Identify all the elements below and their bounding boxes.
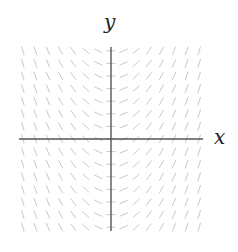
slope-mark (71, 198, 76, 205)
slope-mark (58, 223, 62, 231)
slope-mark (46, 210, 50, 218)
slope-mark (185, 160, 188, 168)
slope-mark (185, 110, 188, 118)
slope-mark (21, 223, 24, 232)
slope-mark (34, 72, 37, 80)
slope-mark (159, 110, 163, 118)
slope-mark (58, 198, 62, 206)
slope-mark (71, 186, 76, 193)
slope-mark (94, 125, 102, 129)
slope-mark (34, 198, 37, 206)
slope-mark (146, 161, 151, 168)
slope-mark (21, 173, 24, 182)
slope-mark (71, 60, 76, 67)
slope-mark (46, 72, 50, 80)
slope-mark (159, 122, 163, 130)
slope-mark (185, 47, 188, 55)
slope-mark (21, 47, 24, 56)
slope-mark (172, 59, 176, 67)
slope-mark (133, 224, 140, 230)
slope-mark (82, 212, 89, 218)
slope-mark (133, 199, 140, 205)
slope-mark (185, 223, 188, 231)
slope-mark (34, 160, 37, 168)
slope-mark (58, 110, 62, 118)
slope-mark (94, 99, 102, 103)
slope-mark (159, 160, 163, 168)
slope-mark (34, 210, 37, 218)
slope-mark (198, 198, 201, 207)
slope-mark (198, 59, 201, 68)
slope-mark (146, 173, 151, 180)
slope-mark (94, 213, 102, 217)
slope-mark (159, 148, 163, 156)
y-axis-label: y (104, 12, 115, 32)
slope-mark (172, 173, 176, 181)
slope-mark (94, 188, 102, 192)
slope-mark (82, 73, 89, 79)
slope-mark (58, 59, 62, 67)
slope-mark (198, 110, 201, 119)
slope-mark (46, 185, 50, 193)
slope-mark (46, 84, 50, 92)
slope-mark (82, 111, 89, 117)
slope-mark (34, 59, 37, 67)
slope-mark (82, 149, 89, 155)
slope-mark (94, 62, 102, 66)
slope-mark (185, 84, 188, 92)
slope-mark (198, 185, 201, 194)
slope-mark (71, 161, 76, 168)
slope-mark (172, 122, 176, 130)
slope-mark (94, 112, 102, 116)
slope-mark (46, 147, 50, 155)
slope-mark (159, 59, 163, 67)
slope-mark (133, 86, 140, 92)
slope-mark (146, 47, 151, 54)
slope-mark (58, 173, 62, 181)
slope-mark (159, 173, 163, 181)
slope-mark (172, 72, 176, 80)
slope-mark (94, 87, 102, 91)
slope-mark (185, 198, 188, 206)
slope-mark (21, 160, 24, 169)
slope-mark (119, 213, 127, 217)
slope-mark (58, 185, 62, 193)
slope-mark (198, 72, 201, 81)
slope-mark (146, 224, 151, 231)
slope-mark (198, 223, 201, 232)
slope-mark (146, 186, 151, 193)
slope-mark (71, 224, 76, 231)
slope-mark (133, 186, 140, 192)
slope-mark (159, 47, 163, 55)
slope-mark (159, 211, 163, 219)
slope-mark (159, 72, 163, 80)
slope-mark (133, 212, 140, 218)
slope-mark (146, 198, 151, 205)
slope-mark (21, 84, 24, 93)
slope-mark (119, 74, 127, 78)
slope-mark (146, 148, 151, 155)
slope-mark (185, 72, 188, 80)
slope-mark (46, 47, 50, 55)
slope-mark (159, 185, 163, 193)
slope-mark (21, 59, 24, 68)
slope-mark (71, 148, 76, 155)
slope-mark (119, 125, 127, 129)
slope-mark (172, 210, 176, 218)
slope-mark (58, 148, 62, 156)
slope-mark (146, 60, 151, 67)
slope-mark (146, 98, 151, 105)
slope-mark (133, 60, 140, 66)
slope-mark (82, 174, 89, 180)
slope-mark (94, 200, 102, 204)
slope-mark (71, 110, 76, 117)
slope-mark (133, 111, 140, 117)
slope-mark (34, 223, 37, 231)
slope-mark (82, 86, 89, 92)
slope-mark (119, 175, 127, 179)
slope-mark (21, 110, 24, 119)
slope-mark (34, 122, 37, 130)
slope-mark (46, 110, 50, 118)
slope-mark (34, 110, 37, 118)
slope-mark (46, 223, 50, 231)
